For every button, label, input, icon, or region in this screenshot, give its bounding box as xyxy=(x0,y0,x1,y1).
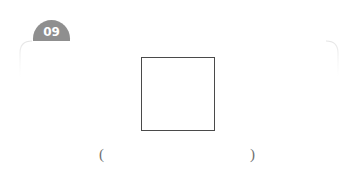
question-number-label: 09 xyxy=(43,26,60,41)
answer-blank-field[interactable] xyxy=(110,144,248,164)
worksheet-page: 09 ( ) xyxy=(0,0,353,176)
faint-header-text xyxy=(74,8,324,22)
answer-blank-open-paren: ( xyxy=(99,144,104,164)
answer-box[interactable] xyxy=(141,57,215,131)
question-number-badge: 09 xyxy=(33,20,70,41)
answer-blank-close-paren: ) xyxy=(250,144,255,164)
